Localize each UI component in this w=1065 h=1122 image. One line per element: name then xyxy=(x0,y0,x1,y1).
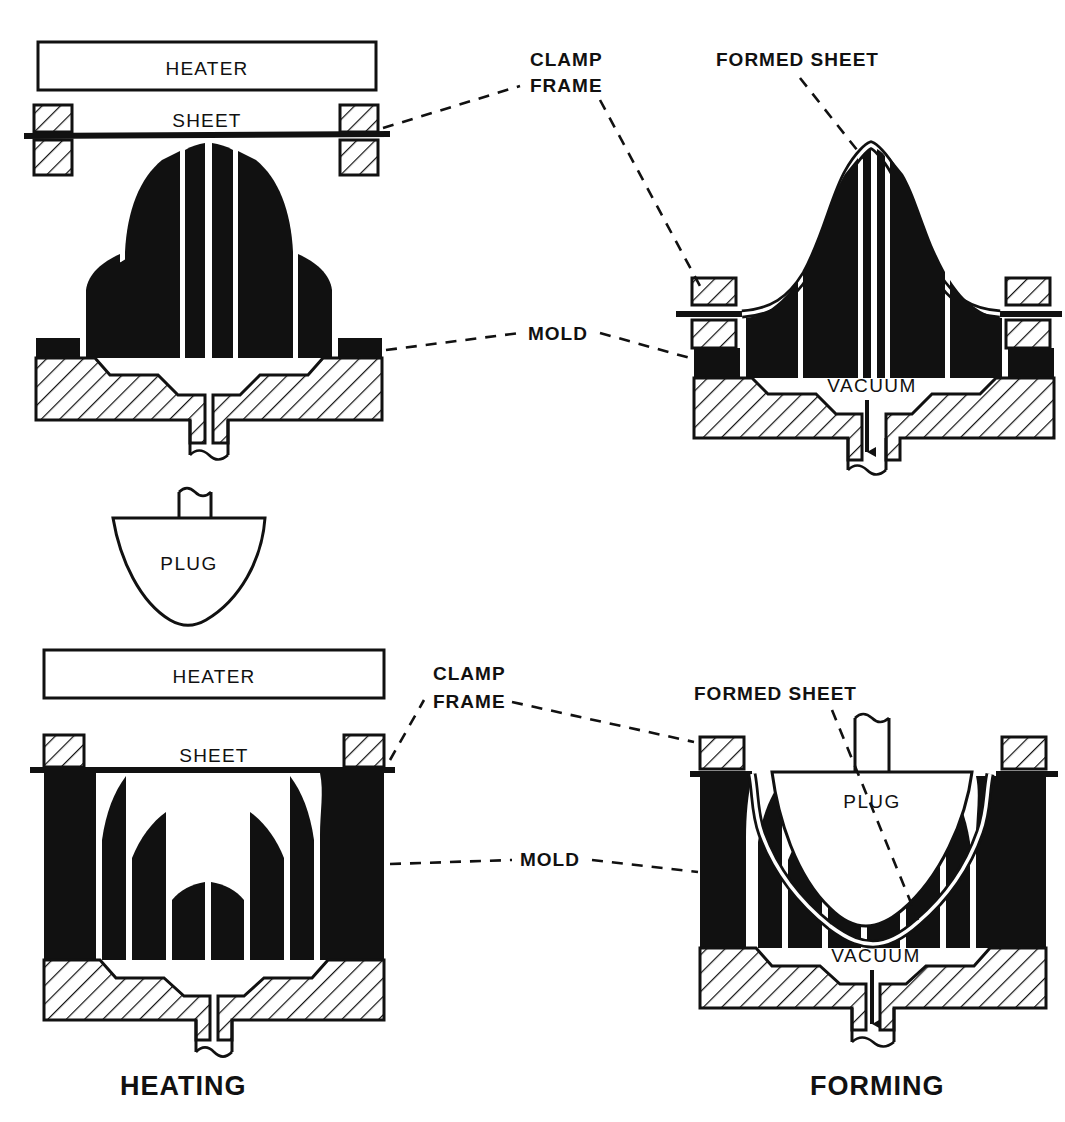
heater-label-bottom: HEATER xyxy=(173,666,256,687)
formed-sheet-label-top: FORMED SHEET xyxy=(716,49,879,70)
plug-center: PLUG xyxy=(113,488,265,625)
clamp-frame-bottomright-right xyxy=(996,737,1058,774)
heater-box-top: HEATER xyxy=(38,42,376,90)
panel-top-left-heating: HEATER SHEET xyxy=(24,42,390,460)
sheet-line-top xyxy=(24,134,390,136)
clamp-frame-bottomleft-right xyxy=(344,735,384,767)
clamp-frame-top-right-pair xyxy=(340,105,378,175)
mold-top-right xyxy=(694,149,1054,378)
clamp-frame-label-bottom-line2: FRAME xyxy=(433,691,506,712)
mold-base-top-left xyxy=(36,358,382,460)
diagram-page: HEATER SHEET xyxy=(0,0,1065,1122)
panel-bottom-left-heating: HEATER SHEET xyxy=(30,650,395,1057)
clamp-frame-label-top-line1: CLAMP xyxy=(530,49,603,70)
panel-top-right-forming: VACUUM xyxy=(676,145,1062,475)
stage-title-heating: HEATING xyxy=(120,1071,247,1101)
mold-base-bottom-left xyxy=(44,960,384,1057)
thermoforming-diagram: HEATER SHEET xyxy=(0,0,1065,1122)
vacuum-label-top: VACUUM xyxy=(827,375,916,396)
vacuum-label-bottom: VACUUM xyxy=(831,945,920,966)
mold-label-bottom: MOLD xyxy=(520,849,580,870)
clamp-frame-label-top-line2: FRAME xyxy=(530,75,603,96)
clamp-frame-bottomright-left xyxy=(690,737,752,774)
heater-label-top: HEATER xyxy=(166,58,249,79)
mold-top-left xyxy=(36,143,382,358)
clamp-frame-label-bottom-line1: CLAMP xyxy=(433,663,506,684)
clamp-frame-top-left-pair xyxy=(34,105,72,175)
mold-bottom-left xyxy=(44,773,384,960)
clamp-frame-bottomleft-left xyxy=(44,735,84,767)
sheet-label-bottom: SHEET xyxy=(179,745,248,766)
plug-label-center: PLUG xyxy=(160,553,217,574)
panel-bottom-right-forming: PLUG VACUUM xyxy=(690,714,1058,1047)
heater-box-bottom: HEATER xyxy=(44,650,384,698)
clamp-frame-topright-right xyxy=(1000,278,1062,348)
clamp-frame-topright-left xyxy=(676,278,742,348)
stage-title-forming: FORMING xyxy=(810,1071,945,1101)
formed-sheet-label-bottom: FORMED SHEET xyxy=(694,683,857,704)
sheet-label-top: SHEET xyxy=(172,110,241,131)
mold-label-top: MOLD xyxy=(528,323,588,344)
